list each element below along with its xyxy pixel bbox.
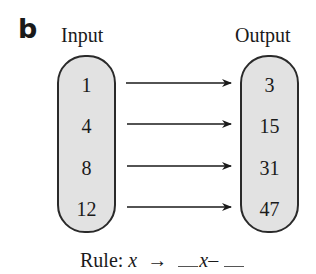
rule-variable: x [128, 249, 137, 271]
rule-expr-variable: x [199, 249, 208, 271]
rule-text: Rule: x → x– [80, 248, 245, 272]
rule-prefix: Rule: [80, 249, 123, 271]
rule-arrow-icon: → [147, 249, 167, 271]
blank-coefficient [178, 265, 198, 267]
rule-operator: – [208, 249, 218, 271]
mapping-arrows [0, 0, 316, 274]
blank-constant [224, 265, 244, 267]
